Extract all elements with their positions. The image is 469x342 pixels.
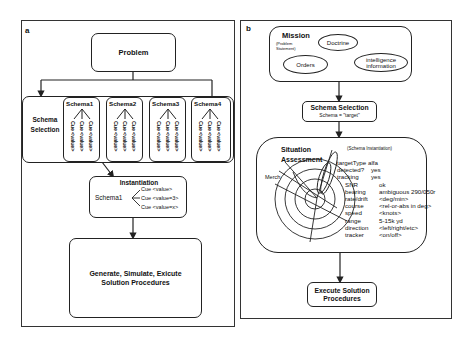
mission-subtitle-2: Statement) (276, 46, 296, 51)
intelligence-label-2: information (366, 63, 396, 69)
intelligence-ellipse: intelligence information (354, 53, 408, 72)
attr-key: detected? (337, 166, 371, 173)
situation-assessment-box: Situation Assessment (Schema Instantiati… (256, 137, 427, 253)
attr-value: ok (379, 181, 386, 188)
attr-row: course<rel-or-abs in deg> (345, 202, 435, 209)
intelligence-label-1: intelligence (366, 57, 396, 63)
attr-row: range5-15k yd (345, 217, 435, 224)
attr-row: speed<knots> (345, 209, 435, 216)
attr-row: direction<left/right/etc> (345, 224, 435, 231)
attr-key: speed (345, 209, 379, 216)
attr-row: targetType alfa (337, 159, 435, 166)
orders-label: Orders (296, 62, 314, 68)
doctrine-label: Doctrine (327, 40, 349, 46)
attr-row: detected?yes (337, 166, 435, 173)
attr-key: direction (345, 224, 379, 231)
attr-key: rate/drift (345, 195, 379, 202)
merch-label: Merch (265, 174, 280, 180)
attr-value: yes (371, 166, 381, 173)
attr-value: 5-15k yd (379, 217, 403, 224)
attr-value: <deg/min> (379, 195, 408, 202)
schema-selection-b-title: Schema Selection (303, 103, 376, 112)
doctrine-ellipse: Doctrine (318, 34, 358, 51)
orders-ellipse: Orders (283, 55, 328, 74)
execute-line-1: Execute Solution (308, 287, 376, 295)
attr-key: bearing (345, 188, 379, 195)
attr-key: range (345, 217, 379, 224)
attr-row: trackingyes (337, 173, 435, 180)
attr-value: <knots> (379, 209, 401, 216)
attr-value: yes (371, 173, 381, 180)
attr-value: alfa (368, 159, 378, 166)
attr-row: SNRok (345, 181, 435, 188)
attr-value: <rel-or-abs in deg> (379, 202, 431, 209)
schema-selection-b-box: Schema Selection Schema = "target" (302, 101, 377, 122)
mission-title: Mission (282, 31, 310, 40)
attr-value: ambiguous 290/050r (379, 188, 435, 195)
attr-key: tracking (337, 173, 371, 180)
mission-box: Mission (Problem Statement) Doctrine Ord… (269, 26, 412, 82)
sa-attributes: targetType alfa detected?yes trackingyes… (337, 159, 435, 238)
attr-row: rate/drift<deg/min> (345, 195, 435, 202)
attr-value: <left/right/etc> (379, 224, 418, 231)
attr-key: SNR (345, 181, 379, 188)
attr-value: <on/off> (379, 231, 402, 238)
attr-key: tracker (345, 231, 379, 238)
attr-row: tracker<on/off> (345, 231, 435, 238)
attr-key: targetType (337, 159, 366, 166)
execute-solution-box: Execute Solution Procedures (307, 282, 377, 307)
schema-selection-b-value: Schema = "target" (303, 112, 376, 119)
execute-line-2: Procedures (308, 295, 376, 303)
attr-key: course (345, 202, 379, 209)
attr-row: bearingambiguous 290/050r (345, 188, 435, 195)
